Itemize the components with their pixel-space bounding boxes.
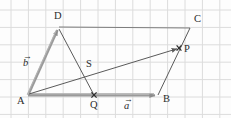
vector-label-b: → b: [23, 57, 28, 69]
point-label-D: D: [54, 11, 62, 22]
vector-geometry-figure: A D Q B C P S → b → a: [0, 0, 231, 118]
segment-A-P: [29, 49, 177, 94]
point-label-B: B: [163, 94, 170, 105]
point-label-A: A: [17, 96, 25, 107]
vector-arrow-overscore-b: →: [23, 52, 31, 61]
point-label-C: C: [194, 14, 201, 25]
vector-arrow-overscore-a: →: [124, 95, 132, 104]
segments-layer: [28, 27, 190, 95]
vector-label-a: → a: [124, 100, 129, 112]
point-label-P: P: [184, 44, 190, 55]
point-label-Q: Q: [90, 100, 98, 111]
vector-a: [28, 94, 155, 96]
point-label-S: S: [86, 59, 92, 70]
